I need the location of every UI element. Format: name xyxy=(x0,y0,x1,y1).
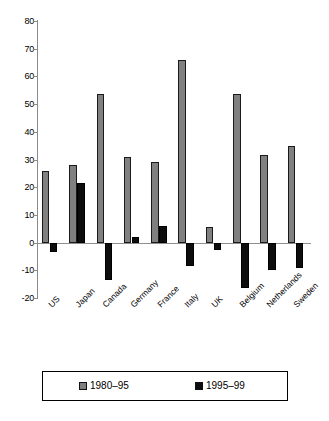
bar xyxy=(186,243,194,267)
bar xyxy=(241,243,249,289)
bar-chart: 80706050403020100-10-20 USJapanCanadaGer… xyxy=(0,0,329,421)
bar xyxy=(288,146,296,243)
bar-group xyxy=(151,21,167,298)
y-tick-label: 60 xyxy=(0,72,34,81)
bar xyxy=(97,94,105,242)
bar xyxy=(105,243,113,280)
bar-group xyxy=(42,21,58,298)
y-tick-label: 70 xyxy=(0,45,34,54)
gray-swatch-icon xyxy=(79,382,87,390)
bar-group xyxy=(178,21,194,298)
bar xyxy=(178,60,186,243)
legend-label: 1995–99 xyxy=(206,381,245,391)
plot-area xyxy=(38,21,311,298)
bar-group xyxy=(69,21,85,298)
bar-group xyxy=(233,21,249,298)
bar xyxy=(42,171,50,243)
bar-group xyxy=(124,21,140,298)
bar xyxy=(159,226,167,243)
bar xyxy=(214,243,222,250)
legend-entry-1995-99: 1995–99 xyxy=(195,381,245,391)
y-tick-label: -20 xyxy=(0,294,34,303)
bar xyxy=(268,243,276,271)
bar xyxy=(296,243,304,268)
bar xyxy=(124,157,132,243)
bar-group xyxy=(288,21,304,298)
y-tick-mark xyxy=(33,298,38,299)
bar xyxy=(50,243,58,253)
black-swatch-icon xyxy=(195,382,203,390)
y-tick-label: 40 xyxy=(0,128,34,137)
y-tick-label: 30 xyxy=(0,156,34,165)
bar xyxy=(233,94,241,242)
bar xyxy=(206,227,214,242)
y-tick-label: 50 xyxy=(0,100,34,109)
bar-group xyxy=(97,21,113,298)
legend-entry-1980-95: 1980–95 xyxy=(79,381,129,391)
bar-group xyxy=(260,21,276,298)
bar-group xyxy=(206,21,222,298)
y-tick-label: 0 xyxy=(0,239,34,248)
y-tick-label: 10 xyxy=(0,211,34,220)
y-tick-label: 20 xyxy=(0,183,34,192)
bar xyxy=(132,237,140,243)
chart-legend: 1980–95 1995–99 xyxy=(42,371,288,401)
y-tick-label: -10 xyxy=(0,266,34,275)
bar xyxy=(69,165,77,243)
legend-label: 1980–95 xyxy=(90,381,129,391)
bar xyxy=(151,162,159,242)
y-tick-label: 80 xyxy=(0,17,34,26)
bar xyxy=(260,155,268,242)
bar xyxy=(77,183,85,243)
